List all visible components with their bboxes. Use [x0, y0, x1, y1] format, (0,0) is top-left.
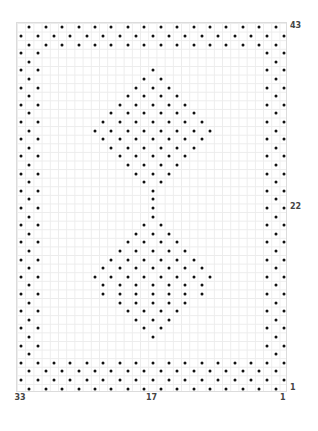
stitch-dot	[282, 379, 285, 382]
stitch-dot	[102, 284, 105, 287]
stitch-dot	[143, 181, 146, 184]
stitch-dot	[266, 189, 269, 192]
stitch-dot	[102, 379, 105, 382]
stitch-dot	[274, 250, 277, 253]
stitch-dot	[77, 26, 80, 29]
stitch-dot	[282, 138, 285, 141]
stitch-dot	[143, 327, 146, 330]
stitch-dot	[143, 258, 146, 261]
stitch-dot	[159, 95, 162, 98]
stitch-dot	[28, 336, 31, 339]
stitch-dot	[36, 275, 39, 278]
stitch-dot	[20, 224, 23, 227]
stitch-dot	[167, 120, 170, 123]
stitch-dot	[126, 275, 129, 278]
stitch-dot	[266, 120, 269, 123]
stitch-dot	[266, 241, 269, 244]
stitch-dot	[20, 327, 23, 330]
stitch-dot	[135, 267, 138, 270]
stitch-dot	[44, 43, 47, 46]
stitch-dot	[266, 224, 269, 227]
stitch-dot	[250, 361, 253, 364]
stitch-dot	[135, 301, 138, 304]
stitch-dot	[151, 293, 154, 296]
row-label: 43	[290, 22, 301, 30]
stitch-dot	[28, 43, 31, 46]
stitch-dot	[282, 103, 285, 106]
stitch-dot	[118, 250, 121, 253]
stitch-dot	[28, 26, 31, 29]
stitch-dot	[167, 232, 170, 235]
stitch-dot	[135, 34, 138, 37]
stitch-dot	[282, 189, 285, 192]
stitch-dot	[20, 344, 23, 347]
stitch-dot	[274, 284, 277, 287]
stitch-dot	[118, 34, 121, 37]
stitch-dot	[110, 129, 113, 132]
stitch-dot	[126, 146, 129, 149]
stitch-dot	[274, 232, 277, 235]
stitch-dot	[143, 129, 146, 132]
stitch-dot	[274, 267, 277, 270]
stitch-dot	[266, 275, 269, 278]
stitch-dot	[176, 163, 179, 166]
stitch-dot	[208, 43, 211, 46]
column-label: 1	[280, 394, 286, 402]
stitch-dot	[282, 310, 285, 313]
stitch-dot	[28, 146, 31, 149]
stitch-dot	[61, 43, 64, 46]
stitch-dot	[61, 370, 64, 373]
stitch-dot	[159, 129, 162, 132]
stitch-dot	[20, 155, 23, 158]
stitch-dot	[102, 267, 105, 270]
stitch-dot	[159, 112, 162, 115]
stitch-dot	[20, 293, 23, 296]
stitch-dot	[143, 163, 146, 166]
stitch-dot	[184, 120, 187, 123]
stitch-dot	[28, 250, 31, 253]
stitch-dot	[282, 344, 285, 347]
stitch-dot	[250, 34, 253, 37]
stitch-dot	[258, 370, 261, 373]
stitch-dot	[151, 189, 154, 192]
stitch-dot	[167, 86, 170, 89]
stitch-dot	[61, 387, 64, 390]
stitch-dot	[282, 361, 285, 364]
stitch-dot	[36, 189, 39, 192]
stitch-dot	[266, 344, 269, 347]
stitch-dot	[184, 284, 187, 287]
stitch-dot	[44, 370, 47, 373]
stitch-dot	[167, 138, 170, 141]
stitch-dot	[274, 215, 277, 218]
stitch-dot	[274, 353, 277, 356]
stitch-dot	[126, 43, 129, 46]
stitch-dot	[233, 34, 236, 37]
stitch-dot	[200, 284, 203, 287]
stitch-dot	[36, 293, 39, 296]
stitch-dot	[20, 69, 23, 72]
stitch-dot	[266, 138, 269, 141]
stitch-dot	[110, 370, 113, 373]
stitch-dot	[143, 43, 146, 46]
stitch-dot	[94, 26, 97, 29]
stitch-dot	[258, 26, 261, 29]
stitch-dot	[274, 60, 277, 63]
stitch-dot	[241, 43, 244, 46]
stitch-dot	[225, 43, 228, 46]
stitch-dot	[151, 267, 154, 270]
stitch-dot	[102, 138, 105, 141]
stitch-dot	[159, 310, 162, 313]
stitch-dot	[200, 138, 203, 141]
stitch-dot	[217, 379, 220, 382]
stitch-dot	[282, 172, 285, 175]
stitch-dot	[217, 361, 220, 364]
stitch-dot	[135, 138, 138, 141]
stitch-dot	[135, 284, 138, 287]
stitch-dot	[36, 258, 39, 261]
stitch-dot	[135, 379, 138, 382]
stitch-dot	[28, 163, 31, 166]
stitch-dot	[118, 379, 121, 382]
stitch-dot	[250, 379, 253, 382]
stitch-dot	[266, 34, 269, 37]
stitch-dot	[135, 232, 138, 235]
